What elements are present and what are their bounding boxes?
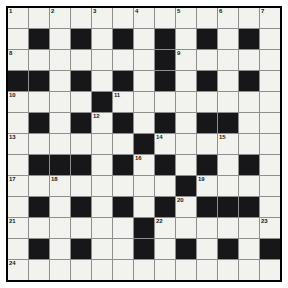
grid-cell[interactable]: 6 xyxy=(218,8,238,28)
grid-cell[interactable] xyxy=(71,8,91,28)
grid-cell[interactable]: 7 xyxy=(260,8,280,28)
grid-cell[interactable] xyxy=(71,50,91,70)
grid-cell[interactable]: 12 xyxy=(92,113,112,133)
grid-cell[interactable] xyxy=(260,50,280,70)
grid-cell[interactable]: 22 xyxy=(155,218,175,238)
grid-cell[interactable]: 4 xyxy=(134,8,154,28)
grid-cell[interactable]: 16 xyxy=(134,155,154,175)
grid-cell[interactable]: 1 xyxy=(8,8,28,28)
grid-cell[interactable] xyxy=(50,218,70,238)
grid-cell[interactable] xyxy=(50,92,70,112)
grid-cell[interactable] xyxy=(260,113,280,133)
grid-cell[interactable] xyxy=(71,92,91,112)
grid-cell[interactable] xyxy=(239,176,259,196)
grid-cell[interactable] xyxy=(50,239,70,259)
grid-cell[interactable] xyxy=(197,239,217,259)
grid-cell[interactable]: 2 xyxy=(50,8,70,28)
grid-cell[interactable]: 20 xyxy=(176,197,196,217)
grid-cell[interactable] xyxy=(218,218,238,238)
grid-cell[interactable] xyxy=(113,218,133,238)
grid-cell[interactable] xyxy=(92,71,112,91)
grid-cell[interactable] xyxy=(92,29,112,49)
grid-cell[interactable] xyxy=(239,134,259,154)
grid-cell[interactable] xyxy=(92,176,112,196)
grid-cell[interactable] xyxy=(134,113,154,133)
grid-cell[interactable] xyxy=(92,197,112,217)
grid-cell[interactable] xyxy=(218,155,238,175)
grid-cell[interactable] xyxy=(113,260,133,280)
grid-cell[interactable] xyxy=(50,197,70,217)
grid-cell[interactable] xyxy=(29,176,49,196)
grid-cell[interactable] xyxy=(239,239,259,259)
grid-cell[interactable] xyxy=(176,134,196,154)
grid-cell[interactable]: 21 xyxy=(8,218,28,238)
grid-cell[interactable] xyxy=(176,92,196,112)
grid-cell[interactable] xyxy=(260,197,280,217)
grid-cell[interactable] xyxy=(29,218,49,238)
grid-cell[interactable] xyxy=(71,176,91,196)
grid-cell[interactable] xyxy=(197,134,217,154)
grid-cell[interactable] xyxy=(8,113,28,133)
grid-cell[interactable] xyxy=(176,218,196,238)
grid-cell[interactable] xyxy=(134,29,154,49)
grid-cell[interactable]: 3 xyxy=(92,8,112,28)
grid-cell[interactable] xyxy=(134,176,154,196)
grid-cell[interactable] xyxy=(239,50,259,70)
grid-cell[interactable] xyxy=(260,134,280,154)
grid-cell[interactable] xyxy=(113,239,133,259)
grid-cell[interactable] xyxy=(155,176,175,196)
grid-cell[interactable] xyxy=(155,8,175,28)
grid-cell[interactable]: 15 xyxy=(218,134,238,154)
grid-cell[interactable] xyxy=(8,29,28,49)
grid-cell[interactable]: 9 xyxy=(176,50,196,70)
grid-cell[interactable] xyxy=(8,155,28,175)
grid-cell[interactable] xyxy=(8,239,28,259)
grid-cell[interactable] xyxy=(113,8,133,28)
grid-cell[interactable] xyxy=(218,260,238,280)
grid-cell[interactable] xyxy=(155,239,175,259)
grid-cell[interactable] xyxy=(260,71,280,91)
grid-cell[interactable] xyxy=(176,260,196,280)
grid-cell[interactable] xyxy=(71,260,91,280)
grid-cell[interactable] xyxy=(197,260,217,280)
grid-cell[interactable] xyxy=(29,8,49,28)
grid-cell[interactable] xyxy=(218,50,238,70)
grid-cell[interactable] xyxy=(71,134,91,154)
grid-cell[interactable]: 13 xyxy=(8,134,28,154)
grid-cell[interactable] xyxy=(113,50,133,70)
grid-cell[interactable] xyxy=(176,113,196,133)
grid-cell[interactable] xyxy=(218,29,238,49)
crossword-grid[interactable]: 123456789101112131415161718192021222324 xyxy=(8,8,280,280)
grid-cell[interactable] xyxy=(239,113,259,133)
grid-cell[interactable] xyxy=(239,218,259,238)
grid-cell[interactable] xyxy=(260,176,280,196)
grid-cell[interactable] xyxy=(92,218,112,238)
grid-cell[interactable] xyxy=(50,134,70,154)
grid-cell[interactable] xyxy=(155,92,175,112)
grid-cell[interactable] xyxy=(92,260,112,280)
grid-cell[interactable] xyxy=(197,218,217,238)
grid-cell[interactable]: 5 xyxy=(176,8,196,28)
grid-cell[interactable] xyxy=(50,29,70,49)
grid-cell[interactable] xyxy=(29,134,49,154)
grid-cell[interactable] xyxy=(197,50,217,70)
grid-cell[interactable]: 17 xyxy=(8,176,28,196)
grid-cell[interactable] xyxy=(260,260,280,280)
grid-cell[interactable] xyxy=(92,50,112,70)
grid-cell[interactable] xyxy=(260,92,280,112)
grid-cell[interactable]: 18 xyxy=(50,176,70,196)
grid-cell[interactable] xyxy=(50,113,70,133)
grid-cell[interactable] xyxy=(50,50,70,70)
grid-cell[interactable] xyxy=(92,134,112,154)
grid-cell[interactable]: 8 xyxy=(8,50,28,70)
grid-cell[interactable] xyxy=(8,197,28,217)
grid-cell[interactable] xyxy=(197,92,217,112)
grid-cell[interactable] xyxy=(134,92,154,112)
grid-cell[interactable] xyxy=(239,92,259,112)
grid-cell[interactable] xyxy=(176,29,196,49)
grid-cell[interactable] xyxy=(92,239,112,259)
grid-cell[interactable] xyxy=(260,29,280,49)
grid-cell[interactable]: 11 xyxy=(113,92,133,112)
grid-cell[interactable] xyxy=(113,134,133,154)
grid-cell[interactable] xyxy=(218,92,238,112)
